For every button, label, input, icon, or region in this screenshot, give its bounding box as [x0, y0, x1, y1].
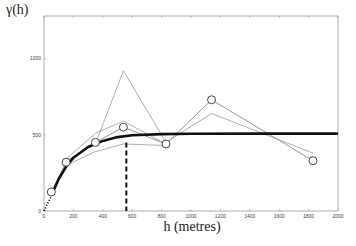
y-tick-label: 1000 — [30, 55, 41, 61]
replicate-line — [66, 144, 166, 165]
experimental-point — [119, 123, 127, 131]
experimental-point — [208, 96, 216, 104]
y-axis-label: γ(h) — [6, 2, 29, 18]
origin-extrapolation — [44, 196, 51, 211]
experimental-point — [47, 188, 55, 196]
experimental-point — [309, 157, 317, 165]
axes-frame — [44, 16, 338, 211]
experimental-point — [91, 138, 99, 146]
variogram-chart: 0200400600800100012001400160018002000050… — [0, 0, 356, 246]
experimental-point — [62, 158, 70, 166]
y-tick-label: 0 — [38, 208, 41, 214]
y-tick-label: 500 — [33, 132, 42, 138]
plot-area: 0200400600800100012001400160018002000050… — [0, 0, 356, 246]
x-axis-label: h (metres) — [0, 219, 356, 235]
experimental-point — [162, 140, 170, 148]
replicate-line — [66, 71, 313, 161]
